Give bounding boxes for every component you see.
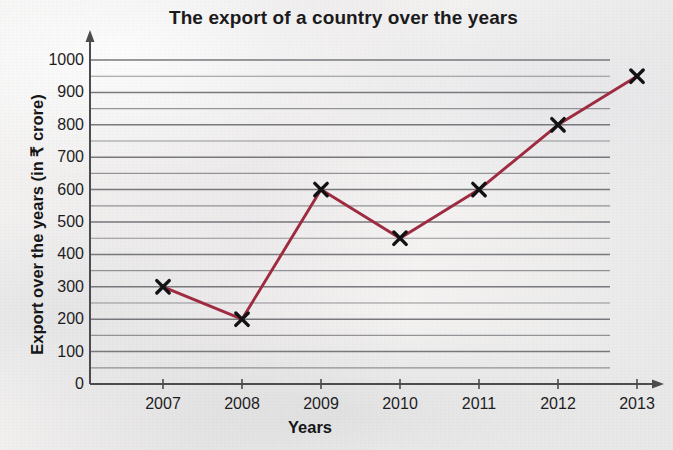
y-axis-tick-label: 700 bbox=[32, 149, 84, 165]
x-axis-tick-label: 2007 bbox=[133, 396, 193, 412]
line-chart-plot bbox=[0, 0, 673, 450]
y-axis-tick-label: 400 bbox=[32, 246, 84, 262]
y-axis-tick-label: 1000 bbox=[32, 52, 84, 68]
y-axis-tick-label: 0 bbox=[32, 376, 84, 392]
data-line bbox=[163, 76, 637, 319]
y-axis-tick-label: 900 bbox=[32, 84, 84, 100]
y-axis-tick-label: 300 bbox=[32, 279, 84, 295]
x-axis-tick-label: 2008 bbox=[212, 396, 272, 412]
x-axis-line bbox=[90, 380, 664, 389]
y-axis-tick-label: 800 bbox=[32, 117, 84, 133]
data-point-marker bbox=[631, 70, 643, 82]
x-axis-tick-label: 2012 bbox=[528, 396, 588, 412]
y-axis-tick-label: 600 bbox=[32, 182, 84, 198]
y-axis-tick-label: 100 bbox=[32, 344, 84, 360]
y-axis-line bbox=[86, 30, 95, 384]
x-axis-tick-label: 2009 bbox=[291, 396, 351, 412]
y-axis-tick-label: 200 bbox=[32, 311, 84, 327]
x-axis-tick-label: 2013 bbox=[607, 396, 667, 412]
x-axis-tick-label: 2010 bbox=[370, 396, 430, 412]
x-axis-tick-label: 2011 bbox=[449, 396, 509, 412]
y-axis-tick-label: 500 bbox=[32, 214, 84, 230]
